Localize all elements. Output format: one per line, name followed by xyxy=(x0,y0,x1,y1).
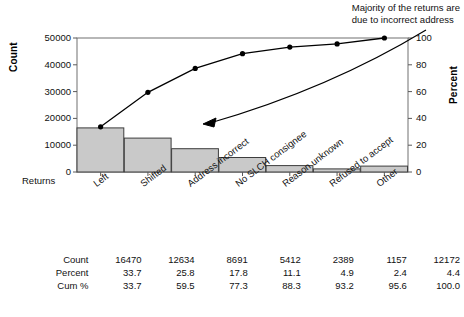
table-cell: 1157 xyxy=(358,254,411,265)
right-axis-ticks xyxy=(408,38,412,172)
table-cell: 33.7 xyxy=(93,267,146,278)
table-row-label: Cum % xyxy=(0,280,93,291)
cumulative-percent-marker xyxy=(193,66,198,71)
data-table: Count1647012634869154122389115712172Perc… xyxy=(0,254,464,293)
table-cell: 4.9 xyxy=(305,267,358,278)
table-cell: 11.1 xyxy=(252,267,305,278)
cumulative-percent-markers xyxy=(98,35,387,129)
table-cell: 77.3 xyxy=(199,280,252,291)
table-row: Count1647012634869154122389115712172 xyxy=(0,254,464,267)
table-cell: 2.4 xyxy=(358,267,411,278)
y-axis-tick-label: 10000 xyxy=(25,139,71,150)
y2-axis-tick-label: 60 xyxy=(416,86,452,97)
cumulative-percent-marker xyxy=(335,41,340,46)
y2-axis-tick-label: 100 xyxy=(416,32,452,43)
cumulative-percent-marker xyxy=(382,35,387,40)
bar xyxy=(77,128,124,172)
annotation-arrow-line xyxy=(210,30,426,123)
table-row: Cum %33.759.577.388.393.295.6100.0 xyxy=(0,280,464,293)
table-cell: 95.6 xyxy=(358,280,411,291)
table-cell: 59.5 xyxy=(146,280,199,291)
table-cell: 4.4 xyxy=(411,267,464,278)
table-row: Percent33.725.817.811.14.92.44.4 xyxy=(0,267,464,280)
table-cell: 12172 xyxy=(411,254,464,265)
pareto-chart-figure: Majority of the returns are due to incor… xyxy=(0,0,464,317)
table-cell: 2389 xyxy=(305,254,358,265)
x-axis-title: Returns xyxy=(22,175,55,186)
y-axis-tick-label: 30000 xyxy=(25,86,71,97)
y2-axis-tick-label: 80 xyxy=(416,59,452,70)
y-axis-tick-label: 50000 xyxy=(25,32,71,43)
y-axis-tick-label: 20000 xyxy=(25,112,71,123)
table-cell: 93.2 xyxy=(305,280,358,291)
table-row-label: Count xyxy=(0,254,93,265)
cumulative-percent-marker xyxy=(145,90,150,95)
table-cell: 8691 xyxy=(199,254,252,265)
cumulative-percent-marker xyxy=(240,51,245,56)
y2-axis-title: Percent xyxy=(448,66,459,104)
table-cell: 5412 xyxy=(252,254,305,265)
y-axis-title: Count xyxy=(8,42,19,72)
table-cell: 100.0 xyxy=(411,280,464,291)
left-axis-ticks xyxy=(73,38,77,172)
y2-axis-tick-label: 40 xyxy=(416,112,452,123)
y2-axis-tick-label: 0 xyxy=(416,166,452,177)
table-cell: 16470 xyxy=(93,254,146,265)
cumulative-percent-marker xyxy=(287,45,292,50)
annotation-arrow-head xyxy=(203,118,216,127)
table-cell: 88.3 xyxy=(252,280,305,291)
y-axis-tick-label: 40000 xyxy=(25,59,71,70)
table-cell: 17.8 xyxy=(199,267,252,278)
table-row-label: Percent xyxy=(0,267,93,278)
table-cell: 12634 xyxy=(146,254,199,265)
y2-axis-tick-label: 20 xyxy=(416,139,452,150)
table-cell: 33.7 xyxy=(93,280,146,291)
cumulative-percent-marker xyxy=(98,124,103,129)
table-cell: 25.8 xyxy=(146,267,199,278)
